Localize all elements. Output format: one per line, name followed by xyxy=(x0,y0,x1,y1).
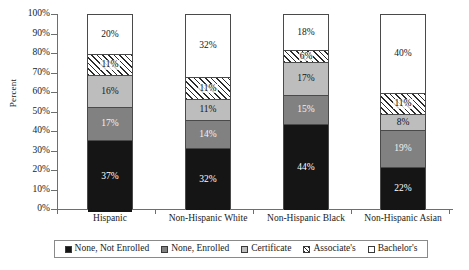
y-axis-tick xyxy=(51,92,57,93)
bar-segment-value: 17% xyxy=(297,74,314,84)
legend-swatch-icon xyxy=(241,246,248,253)
legend-swatch-icon xyxy=(161,246,168,253)
bar-segment[interactable]: 40% xyxy=(381,15,425,93)
y-axis-line xyxy=(57,14,58,210)
bar-segment[interactable]: 14% xyxy=(186,120,230,147)
bar-segment[interactable]: 37% xyxy=(88,140,132,212)
bar-segment[interactable]: 15% xyxy=(284,95,328,124)
y-axis-tick xyxy=(51,131,57,132)
bar-segment[interactable]: 22% xyxy=(381,167,425,210)
x-axis-label-hispanic: Hispanic xyxy=(55,214,165,224)
bar-segment-value: 11% xyxy=(199,105,216,115)
bar-segment[interactable]: 11% xyxy=(186,99,230,120)
bar-segment[interactable]: 20% xyxy=(88,15,132,54)
bar-non-hispanic-asian[interactable]: 40%11%8%19%22% xyxy=(380,14,426,209)
chart-legend: None, Not EnrolledNone, EnrolledCertific… xyxy=(54,240,428,258)
bar-segment-value: 44% xyxy=(297,163,314,173)
bar-segment[interactable]: 16% xyxy=(88,75,132,106)
bar-segment[interactable]: 18% xyxy=(284,15,328,50)
bar-segment-value: 8% xyxy=(397,118,410,128)
legend-swatch-icon xyxy=(303,246,310,253)
bar-segment[interactable]: 44% xyxy=(284,124,328,210)
legend-swatch-icon xyxy=(65,246,72,253)
legend-label: None, Not Enrolled xyxy=(75,244,150,254)
bar-segment[interactable]: 11% xyxy=(186,77,230,98)
bar-segment-value: 32% xyxy=(199,41,216,51)
y-axis-tick xyxy=(51,190,57,191)
bar-segment-value: 16% xyxy=(101,87,118,97)
y-axis-tick-label: 30% xyxy=(4,146,50,156)
legend-label: Certificate xyxy=(251,244,291,254)
x-axis-label-non-hispanic-asian: Non-Hispanic Asian xyxy=(348,214,458,224)
bar-segment-value: 11% xyxy=(198,84,217,94)
bar-segment-value: 6% xyxy=(299,52,314,62)
y-axis-tick-label: 10% xyxy=(4,185,50,195)
stacked-bar-chart: Percent 0%10%20%30%40%50%60%70%80%90%100… xyxy=(0,0,469,270)
legend-item-none-not-enrolled[interactable]: None, Not Enrolled xyxy=(65,244,150,254)
bar-non-hispanic-black[interactable]: 18%6%17%15%44% xyxy=(283,14,329,209)
y-axis-tick xyxy=(51,151,57,152)
bar-segment-value: 20% xyxy=(101,30,118,40)
x-axis-label-non-hispanic-white: Non-Hispanic White xyxy=(153,214,263,224)
legend-item-certificate[interactable]: Certificate xyxy=(241,244,291,254)
bar-non-hispanic-white[interactable]: 32%11%11%14%32% xyxy=(185,14,231,209)
y-axis-tick xyxy=(51,53,57,54)
legend-label: Bachelor's xyxy=(378,244,418,254)
bar-segment[interactable]: 6% xyxy=(284,50,328,62)
bar-segment-value: 37% xyxy=(101,172,118,182)
bar-segment[interactable]: 19% xyxy=(381,130,425,167)
y-axis-tick xyxy=(51,34,57,35)
bar-segment-value: 15% xyxy=(297,105,314,115)
bar-segment[interactable]: 17% xyxy=(88,107,132,140)
y-axis-tick-label: 20% xyxy=(4,165,50,175)
legend-item-associate-s[interactable]: Associate's xyxy=(303,244,355,254)
y-axis-tick xyxy=(51,112,57,113)
legend-item-none-enrolled[interactable]: None, Enrolled xyxy=(161,244,229,254)
y-axis-tick xyxy=(51,14,57,15)
bar-segment-value: 40% xyxy=(394,49,411,59)
y-axis-tick-label: 0% xyxy=(4,204,50,214)
bar-segment[interactable]: 32% xyxy=(186,15,230,77)
legend-swatch-icon xyxy=(368,246,375,253)
y-axis-tick-label: 50% xyxy=(4,107,50,117)
y-axis-tick-label: 60% xyxy=(4,87,50,97)
bar-segment-value: 22% xyxy=(394,184,411,194)
y-axis-tick-label: 70% xyxy=(4,68,50,78)
bar-segment-value: 18% xyxy=(297,28,314,38)
bar-segment[interactable]: 32% xyxy=(186,148,230,210)
plot-area: 0%10%20%30%40%50%60%70%80%90%100% 20%11%… xyxy=(57,14,453,209)
bar-segment-value: 14% xyxy=(199,130,216,140)
y-axis-tick-label: 80% xyxy=(4,48,50,58)
y-axis-tick-label: 90% xyxy=(4,29,50,39)
bar-segment[interactable]: 11% xyxy=(381,93,425,114)
bar-segment[interactable]: 8% xyxy=(381,114,425,130)
bar-segment[interactable]: 17% xyxy=(284,62,328,95)
x-axis-label-non-hispanic-black: Non-Hispanic Black xyxy=(251,214,361,224)
bar-segment-value: 32% xyxy=(199,175,216,185)
legend-item-bachelor-s[interactable]: Bachelor's xyxy=(368,244,418,254)
legend-label: Associate's xyxy=(313,244,355,254)
bar-segment-value: 11% xyxy=(100,60,119,70)
bar-hispanic[interactable]: 20%11%16%17%37% xyxy=(87,14,133,209)
y-axis-tick-label: 100% xyxy=(4,9,50,19)
bar-segment-value: 19% xyxy=(394,144,411,154)
bar-segment[interactable]: 11% xyxy=(88,54,132,75)
bar-segment-value: 11% xyxy=(393,99,412,109)
legend-label: None, Enrolled xyxy=(171,244,229,254)
y-axis-tick xyxy=(51,73,57,74)
y-axis-tick xyxy=(51,170,57,171)
bar-segment-value: 17% xyxy=(101,119,118,129)
y-axis-tick-label: 40% xyxy=(4,126,50,136)
